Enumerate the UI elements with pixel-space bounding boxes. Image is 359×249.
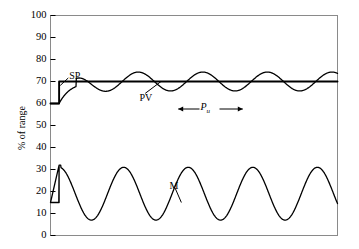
y-axis-tick-label: 20 bbox=[23, 185, 47, 196]
plot-frame bbox=[51, 16, 338, 236]
y-axis-tick-label: 60 bbox=[23, 97, 47, 108]
y-axis-tick-label: 90 bbox=[23, 31, 47, 42]
period-label-pu: Pu bbox=[201, 101, 211, 115]
chart-figure: % of range 1009080706050403020100 SP PV … bbox=[0, 0, 359, 249]
y-axis-tick-label: 70 bbox=[23, 75, 47, 86]
y-axis-tick-label: 50 bbox=[23, 119, 47, 130]
y-axis-tick-label: 40 bbox=[23, 141, 47, 152]
series-label-m: M bbox=[170, 180, 179, 191]
chart-plot-area bbox=[0, 0, 359, 249]
period-label-subscript: u bbox=[207, 107, 211, 115]
y-axis-tick-label: 100 bbox=[23, 9, 47, 20]
y-axis-tick-label: 0 bbox=[23, 229, 47, 240]
y-axis-tick-label: 30 bbox=[23, 163, 47, 174]
y-axis-tick-label: 80 bbox=[23, 53, 47, 64]
series-label-pv: PV bbox=[139, 92, 152, 103]
y-axis-tick-label: 10 bbox=[23, 207, 47, 218]
series-label-sp: SP bbox=[69, 70, 80, 81]
